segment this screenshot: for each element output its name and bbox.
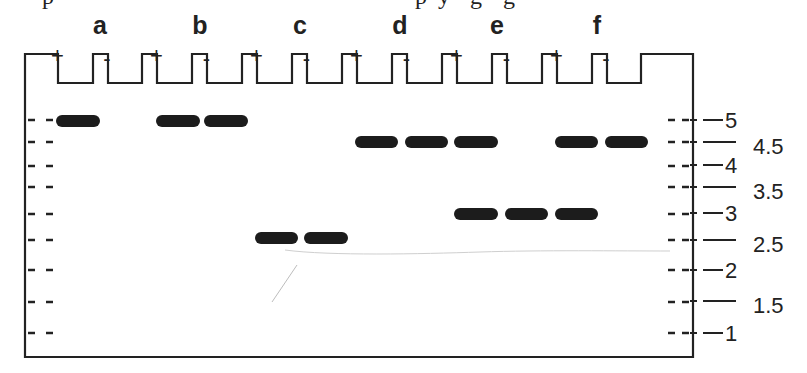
dna-bands bbox=[56, 115, 648, 244]
dna-band bbox=[505, 208, 548, 220]
minus-sign: - bbox=[103, 46, 110, 71]
scale-label: 5 bbox=[725, 108, 737, 133]
scale-label: 3.5 bbox=[753, 179, 784, 204]
gel-outline bbox=[25, 54, 693, 357]
ladder-marks bbox=[28, 120, 689, 333]
dna-band bbox=[304, 232, 348, 244]
gel-electrophoresis-diagram: abcdef +-+-+-+-+-+- 54.543.532.521.51 bbox=[0, 0, 807, 373]
scale-label: 3 bbox=[725, 201, 737, 226]
minus-sign: - bbox=[602, 46, 609, 71]
scale-label: 4 bbox=[725, 153, 737, 178]
lane-label-f: f bbox=[593, 11, 602, 39]
dna-band bbox=[555, 136, 598, 148]
dna-band bbox=[56, 115, 100, 127]
scale-label: 1 bbox=[725, 321, 737, 346]
dna-band bbox=[355, 136, 398, 148]
dna-band bbox=[405, 136, 448, 148]
plus-sign: + bbox=[150, 43, 163, 68]
stray-pencil-marks bbox=[272, 250, 670, 302]
lane-label-e: e bbox=[490, 11, 504, 39]
lane-labels: abcdef bbox=[93, 11, 602, 39]
lane-label-b: b bbox=[192, 11, 207, 39]
plus-sign: + bbox=[350, 43, 363, 68]
scale-label: 2 bbox=[725, 258, 737, 283]
gel-border bbox=[25, 54, 693, 357]
lane-label-a: a bbox=[93, 11, 108, 39]
dna-band bbox=[605, 136, 648, 148]
lane-label-c: c bbox=[293, 11, 307, 39]
dna-band bbox=[204, 115, 248, 127]
dna-band bbox=[255, 232, 298, 244]
minus-sign: - bbox=[403, 46, 410, 71]
plus-sign: + bbox=[51, 43, 64, 68]
lane-label-d: d bbox=[392, 11, 407, 39]
faint-diagonal bbox=[272, 265, 297, 302]
scale-label: 1.5 bbox=[753, 293, 784, 318]
dna-band bbox=[454, 208, 498, 220]
scale-label: 2.5 bbox=[753, 232, 784, 257]
plus-sign: + bbox=[250, 43, 263, 68]
dna-band bbox=[555, 208, 598, 220]
minus-sign: - bbox=[503, 46, 510, 71]
plus-sign: + bbox=[450, 43, 463, 68]
minus-sign: - bbox=[203, 46, 210, 71]
plus-sign: + bbox=[550, 43, 563, 68]
faint-line bbox=[285, 250, 670, 254]
dna-band bbox=[156, 115, 200, 127]
minus-sign: - bbox=[303, 46, 310, 71]
well-signs: +-+-+-+-+-+- bbox=[51, 43, 610, 71]
dna-band bbox=[454, 136, 498, 148]
scale-label: 4.5 bbox=[753, 134, 784, 159]
size-scale: 54.543.532.521.51 bbox=[690, 108, 784, 346]
